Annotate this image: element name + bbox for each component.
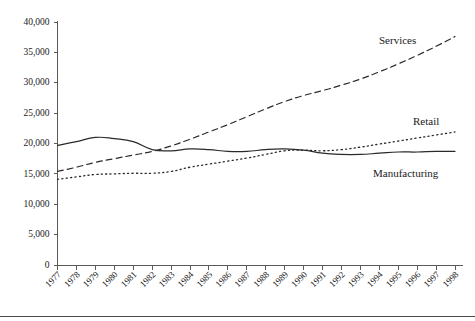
y-tick-label: 15,000 xyxy=(23,169,49,179)
x-tick-label: 1978 xyxy=(62,269,82,289)
series-line-manufacturing xyxy=(58,137,456,154)
x-tick-label: 1993 xyxy=(346,269,366,289)
x-tick-label: 1985 xyxy=(195,269,215,289)
x-tick-label: 1977 xyxy=(43,269,63,289)
x-tick-label: 1988 xyxy=(251,269,271,289)
series-annotations: ServicesRetailManufacturing xyxy=(373,34,439,179)
x-tick-label: 1995 xyxy=(384,269,404,289)
x-tick-label: 1984 xyxy=(176,269,196,289)
y-tick-label: 30,000 xyxy=(23,77,49,87)
series-label-manufacturing: Manufacturing xyxy=(373,167,439,179)
x-tick-label: 1994 xyxy=(365,269,385,289)
x-axis: 1977197819791980198119821983198419851986… xyxy=(43,265,463,289)
x-tick-label: 1992 xyxy=(327,269,347,289)
y-tick-label: 40,000 xyxy=(23,17,49,27)
x-tick-label: 1979 xyxy=(81,269,101,289)
y-axis: 05,00010,00015,00020,00025,00030,00035,0… xyxy=(23,17,57,270)
x-tick-label: 1998 xyxy=(441,269,461,289)
series-label-services: Services xyxy=(379,34,416,46)
y-tick-label: 10,000 xyxy=(23,199,49,209)
line-chart: 05,00010,00015,00020,00025,00030,00035,0… xyxy=(0,0,475,321)
x-tick-label: 1981 xyxy=(119,269,139,289)
x-tick-label: 1989 xyxy=(270,269,290,289)
y-tick-label: 0 xyxy=(45,260,50,270)
y-tick-label: 35,000 xyxy=(23,47,49,57)
series-line-services xyxy=(58,37,456,172)
x-tick-label: 1983 xyxy=(157,269,177,289)
x-tick-label: 1997 xyxy=(422,269,442,289)
x-tick-label: 1980 xyxy=(100,269,120,289)
x-tick-label: 1990 xyxy=(289,269,309,289)
y-tick-label: 25,000 xyxy=(23,108,49,118)
y-tick-label: 20,000 xyxy=(23,138,49,148)
series-label-retail: Retail xyxy=(413,115,439,127)
y-tick-label: 5,000 xyxy=(28,229,50,239)
footer-divider xyxy=(0,316,475,317)
chart-figure: 05,00010,00015,00020,00025,00030,00035,0… xyxy=(0,0,475,321)
series-lines xyxy=(58,37,456,180)
x-tick-label: 1982 xyxy=(138,269,158,289)
x-tick-label: 1987 xyxy=(232,269,252,289)
x-tick-label: 1986 xyxy=(213,269,233,289)
x-tick-label: 1991 xyxy=(308,269,328,289)
x-tick-label: 1996 xyxy=(403,269,423,289)
